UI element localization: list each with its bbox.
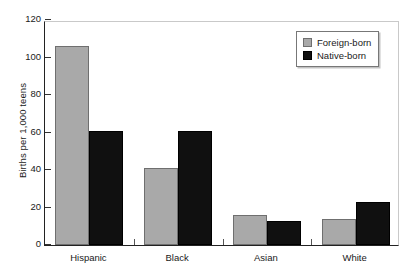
category-label-hispanic: Hispanic [48, 252, 128, 263]
category-label-white: White [315, 252, 395, 263]
chart-legend: Foreign-bornNative-born [296, 31, 379, 67]
bar-black-native-born [178, 131, 212, 245]
legend-label: Foreign-born [317, 37, 371, 48]
legend-swatch-icon [303, 51, 312, 60]
y-axis-tick-label: 0 [36, 238, 41, 249]
bar-hispanic-foreign-born [55, 46, 89, 245]
y-axis-tick-label: 100 [25, 51, 41, 62]
y-axis-tick-label: 40 [30, 163, 41, 174]
y-axis-tick-label: 120 [25, 13, 41, 24]
x-axis-tick [134, 239, 135, 245]
bar-chart: Births per 1,000 teens 020406080100120 H… [0, 0, 415, 278]
bar-asian-foreign-born [233, 215, 267, 245]
y-axis-tick-label: 20 [30, 201, 41, 212]
bar-hispanic-native-born [89, 131, 123, 245]
y-axis-tick: 40 [45, 169, 51, 170]
y-axis-tick: 120 [45, 19, 51, 20]
y-axis-tick: 20 [45, 207, 51, 208]
bar-white-native-born [356, 202, 390, 245]
x-axis-tick [223, 239, 224, 245]
legend-item-native: Native-born [303, 49, 371, 62]
bar-black-foreign-born [144, 168, 178, 245]
y-axis-tick: 100 [45, 57, 51, 58]
bar-white-foreign-born [322, 219, 356, 245]
legend-label: Native-born [317, 50, 366, 61]
y-axis-tick: 0 [45, 244, 51, 245]
category-label-black: Black [137, 252, 217, 263]
category-label-asian: Asian [226, 252, 306, 263]
y-axis-tick: 80 [45, 94, 51, 95]
y-axis-tick-label: 80 [30, 88, 41, 99]
bar-asian-native-born [267, 221, 301, 245]
legend-swatch-icon [303, 38, 312, 47]
legend-item-foreign: Foreign-born [303, 36, 371, 49]
x-axis-tick [311, 239, 312, 245]
y-axis-title: Births per 1,000 teens [17, 51, 28, 211]
y-axis-tick-label: 60 [30, 126, 41, 137]
y-axis-tick: 60 [45, 132, 51, 133]
